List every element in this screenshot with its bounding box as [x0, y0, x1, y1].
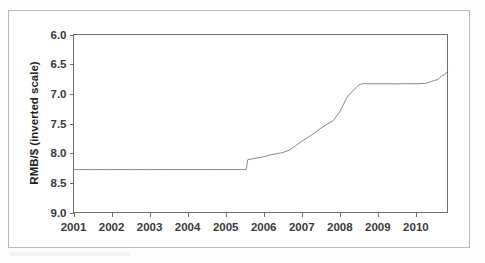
y-axis-ticks: [70, 36, 74, 214]
x-tick-label: 2003: [137, 221, 163, 233]
x-axis-ticks: [75, 213, 417, 217]
x-tick-label: 2005: [213, 221, 239, 233]
x-tick-label: 2010: [403, 221, 429, 233]
y-axis-title: RMB/$ (inverted scale): [28, 61, 40, 185]
y-tick-label: 8.0: [51, 147, 67, 159]
y-tick-label: 7.0: [51, 88, 67, 100]
x-axis-tick-labels: 2001200220032004200520062007200820092010: [61, 221, 429, 233]
y-tick-label: 6.5: [51, 58, 68, 70]
data-series-line: [74, 71, 448, 169]
figure-root: 6.06.57.07.58.08.59.0 200120022003200420…: [0, 0, 485, 263]
chart-canvas: 6.06.57.07.58.08.59.0 200120022003200420…: [0, 0, 485, 263]
x-tick-label: 2002: [99, 221, 125, 233]
y-axis-tick-labels: 6.06.57.07.58.08.59.0: [51, 29, 68, 219]
page-artifact: [10, 252, 130, 256]
y-tick-label: 6.0: [51, 29, 67, 41]
x-tick-label: 2009: [365, 221, 391, 233]
y-tick-label: 8.5: [51, 177, 68, 189]
x-tick-label: 2007: [289, 221, 315, 233]
y-tick-label: 9.0: [51, 207, 67, 219]
x-tick-label: 2008: [327, 221, 353, 233]
x-tick-label: 2006: [251, 221, 277, 233]
y-tick-label: 7.5: [51, 118, 68, 130]
line-chart-svg: 6.06.57.07.58.08.59.0 200120022003200420…: [0, 0, 485, 263]
x-tick-label: 2004: [175, 221, 201, 233]
x-tick-label: 2001: [61, 221, 87, 233]
